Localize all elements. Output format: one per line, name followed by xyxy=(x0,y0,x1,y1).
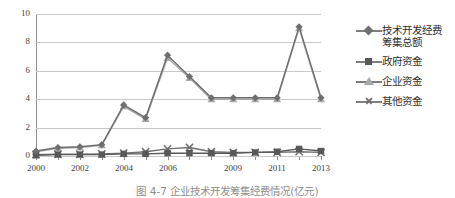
square-marker-icon xyxy=(55,151,61,157)
square-marker-icon xyxy=(296,146,302,152)
square-marker-icon xyxy=(230,150,236,156)
triangle-marker-icon xyxy=(356,76,382,88)
diamond-marker-icon xyxy=(356,25,382,37)
cross-marker-icon xyxy=(356,96,382,108)
square-marker-icon xyxy=(208,150,214,156)
series-line xyxy=(36,28,321,152)
square-marker-icon xyxy=(164,150,170,156)
legend-item-other[interactable]: 其他资金 xyxy=(356,95,455,108)
square-marker-icon xyxy=(142,151,148,157)
legend-label-total: 技术开发经费 筹集总额 xyxy=(382,24,442,48)
square-marker-icon xyxy=(318,148,324,154)
square-marker-icon xyxy=(186,150,192,156)
legend-item-enterprise[interactable]: 企业资金 xyxy=(356,75,455,88)
legend-label-government: 政府资金 xyxy=(382,55,422,67)
square-marker-icon xyxy=(274,149,280,155)
legend-item-total[interactable]: 技术开发经费 筹集总额 xyxy=(356,24,455,48)
chart-figure: 0246810 2000200220042006200920112013 技术开… xyxy=(0,0,455,198)
chart-legend: 技术开发经费 筹集总额 政府资金 企业资金 其他资金 xyxy=(356,24,455,115)
square-marker-icon xyxy=(77,151,83,157)
legend-item-government[interactable]: 政府资金 xyxy=(356,55,455,68)
figure-caption: 图 4-7 企业技术开发筹集经费情况(亿元) xyxy=(0,185,455,197)
square-marker-icon xyxy=(356,56,382,68)
square-marker-icon xyxy=(120,151,126,157)
square-marker-icon xyxy=(99,151,105,157)
series-triangle xyxy=(32,24,325,155)
square-marker-icon xyxy=(252,149,258,155)
legend-label-enterprise: 企业资金 xyxy=(382,75,422,87)
legend-label-other: 其他资金 xyxy=(382,95,422,107)
series-line xyxy=(36,27,321,151)
